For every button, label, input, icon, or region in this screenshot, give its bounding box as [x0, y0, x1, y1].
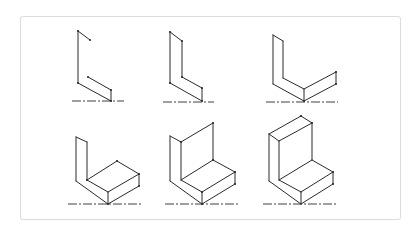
edge-line	[87, 180, 108, 192]
edge-line	[301, 172, 333, 192]
vertex-mark	[138, 173, 140, 175]
vertex-mark	[212, 122, 214, 124]
vertex-mark	[77, 82, 79, 84]
vertex-mark	[110, 89, 112, 91]
edge-line	[182, 77, 202, 88]
vertex-mark	[87, 76, 89, 78]
vertex-mark	[300, 115, 302, 117]
step-5-figure	[165, 122, 238, 205]
edge-line	[108, 186, 139, 204]
edge-line	[283, 78, 304, 89]
vertex-mark	[107, 203, 109, 205]
edge-line	[213, 160, 235, 172]
vertex-mark	[201, 87, 203, 89]
vertex-mark	[77, 30, 79, 32]
vertex-mark	[335, 71, 337, 73]
edge-line	[301, 184, 333, 204]
vertex-mark	[335, 83, 337, 85]
edge-line	[76, 181, 108, 204]
edge-line	[87, 161, 117, 180]
edge-line	[181, 180, 202, 192]
step-2-figure	[163, 31, 214, 102]
edge-line	[117, 161, 139, 174]
step-1-figure	[72, 30, 124, 102]
vertex-mark	[86, 179, 88, 181]
vertex-mark	[201, 191, 203, 193]
step-4-figure	[68, 137, 142, 205]
edge-line	[170, 32, 182, 41]
vertex-mark	[89, 39, 91, 41]
edge-line	[269, 181, 301, 204]
vertex-mark	[169, 82, 171, 84]
edge-line	[170, 136, 181, 142]
edge-line	[279, 160, 312, 180]
edge-line	[88, 77, 111, 90]
edge-line	[181, 160, 213, 180]
vertex-mark	[201, 203, 203, 205]
edge-line	[202, 184, 235, 204]
vertex-mark	[234, 171, 236, 173]
vertex-mark	[234, 183, 236, 185]
edge-line	[273, 35, 283, 41]
vertex-mark	[201, 100, 203, 102]
edge-line	[181, 123, 213, 142]
vertex-mark	[180, 141, 182, 143]
edge-line	[312, 160, 333, 172]
vertex-mark	[110, 100, 112, 102]
edge-line	[170, 181, 202, 204]
isometric-construction-diagram	[0, 0, 417, 232]
vertex-mark	[303, 100, 305, 102]
step-3-figure	[266, 35, 338, 102]
vertex-mark	[332, 183, 334, 185]
vertex-mark	[332, 171, 334, 173]
vertex-mark	[169, 31, 171, 33]
vertex-mark	[181, 40, 183, 42]
edge-line	[269, 134, 279, 141]
vertex-mark	[311, 122, 313, 124]
edge-line	[301, 116, 312, 123]
edge-line	[76, 137, 87, 142]
vertex-mark	[212, 159, 214, 161]
edge-line	[108, 174, 139, 192]
vertex-mark	[138, 185, 140, 187]
step-6-figure	[263, 115, 336, 204]
edge-line	[202, 172, 235, 192]
vertex-mark	[116, 160, 118, 162]
edge-line	[78, 31, 90, 40]
vertex-mark	[181, 76, 183, 78]
edge-line	[78, 83, 111, 101]
